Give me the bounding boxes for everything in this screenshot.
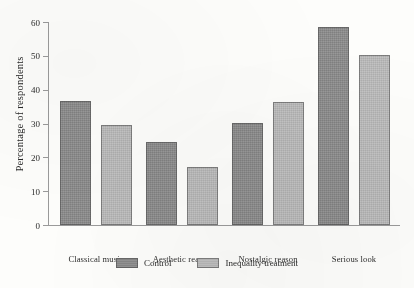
legend-label-treatment: Inequality treatment [225, 258, 298, 268]
y-tick-label-40: 40 [31, 85, 40, 95]
legend-swatch-treatment [197, 258, 219, 268]
y-tick-40: 40 [43, 90, 48, 91]
y-tick-label-30: 30 [31, 119, 40, 129]
y-axis-line [48, 22, 49, 226]
bar-control [232, 123, 263, 226]
bar-treatment [187, 167, 218, 225]
y-tick-label-60: 60 [31, 18, 40, 28]
legend-item-treatment: Inequality treatment [197, 258, 298, 268]
bar-group [146, 22, 218, 225]
y-tick-20: 20 [43, 157, 48, 158]
y-tick-10: 10 [43, 191, 48, 192]
bar-treatment [273, 102, 304, 225]
bar-group [232, 22, 304, 225]
x-axis-line [48, 225, 400, 226]
plot-area: 0102030405060 Classical musicAesthetic r… [48, 22, 400, 226]
bar-treatment [359, 55, 390, 225]
y-tick-50: 50 [43, 56, 48, 57]
legend-swatch-control [116, 258, 138, 268]
y-axis-title-text: Percentage of respondents [14, 56, 25, 171]
y-axis-title: Percentage of respondents [6, 0, 32, 228]
y-tick-label-50: 50 [31, 51, 40, 61]
chart-legend: Control Inequality treatment [0, 258, 414, 268]
legend-item-control: Control [116, 258, 172, 268]
y-tick-60: 60 [43, 22, 48, 23]
bar-control [60, 101, 91, 226]
bar-group [60, 22, 132, 225]
legend-label-control: Control [144, 258, 172, 268]
y-tick-label-20: 20 [31, 153, 40, 163]
bar-control [318, 27, 349, 225]
bar-treatment [101, 125, 132, 225]
bar-control [146, 142, 177, 225]
bar-group [318, 22, 390, 225]
y-tick-30: 30 [43, 124, 48, 125]
bar-chart-figure: Percentage of respondents 0102030405060 … [0, 0, 414, 288]
y-tick-0: 0 [43, 225, 48, 226]
y-tick-label-10: 10 [31, 187, 40, 197]
y-tick-label-0: 0 [36, 221, 41, 231]
